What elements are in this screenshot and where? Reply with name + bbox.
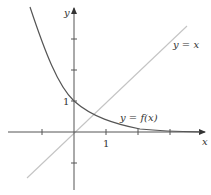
y-tick-label-1: 1 — [63, 96, 69, 107]
exponential-decay-curve — [30, 7, 200, 132]
identity-line — [27, 26, 187, 178]
y-axis-label: y — [63, 7, 70, 18]
x-tick-label-1: 1 — [103, 138, 109, 149]
curve-label: y = f(x) — [119, 112, 158, 123]
x-axis-label: x — [202, 136, 208, 147]
function-graph: y x 1 1 y = x y = f(x) — [0, 0, 211, 195]
identity-line-label: y = x — [172, 39, 199, 50]
